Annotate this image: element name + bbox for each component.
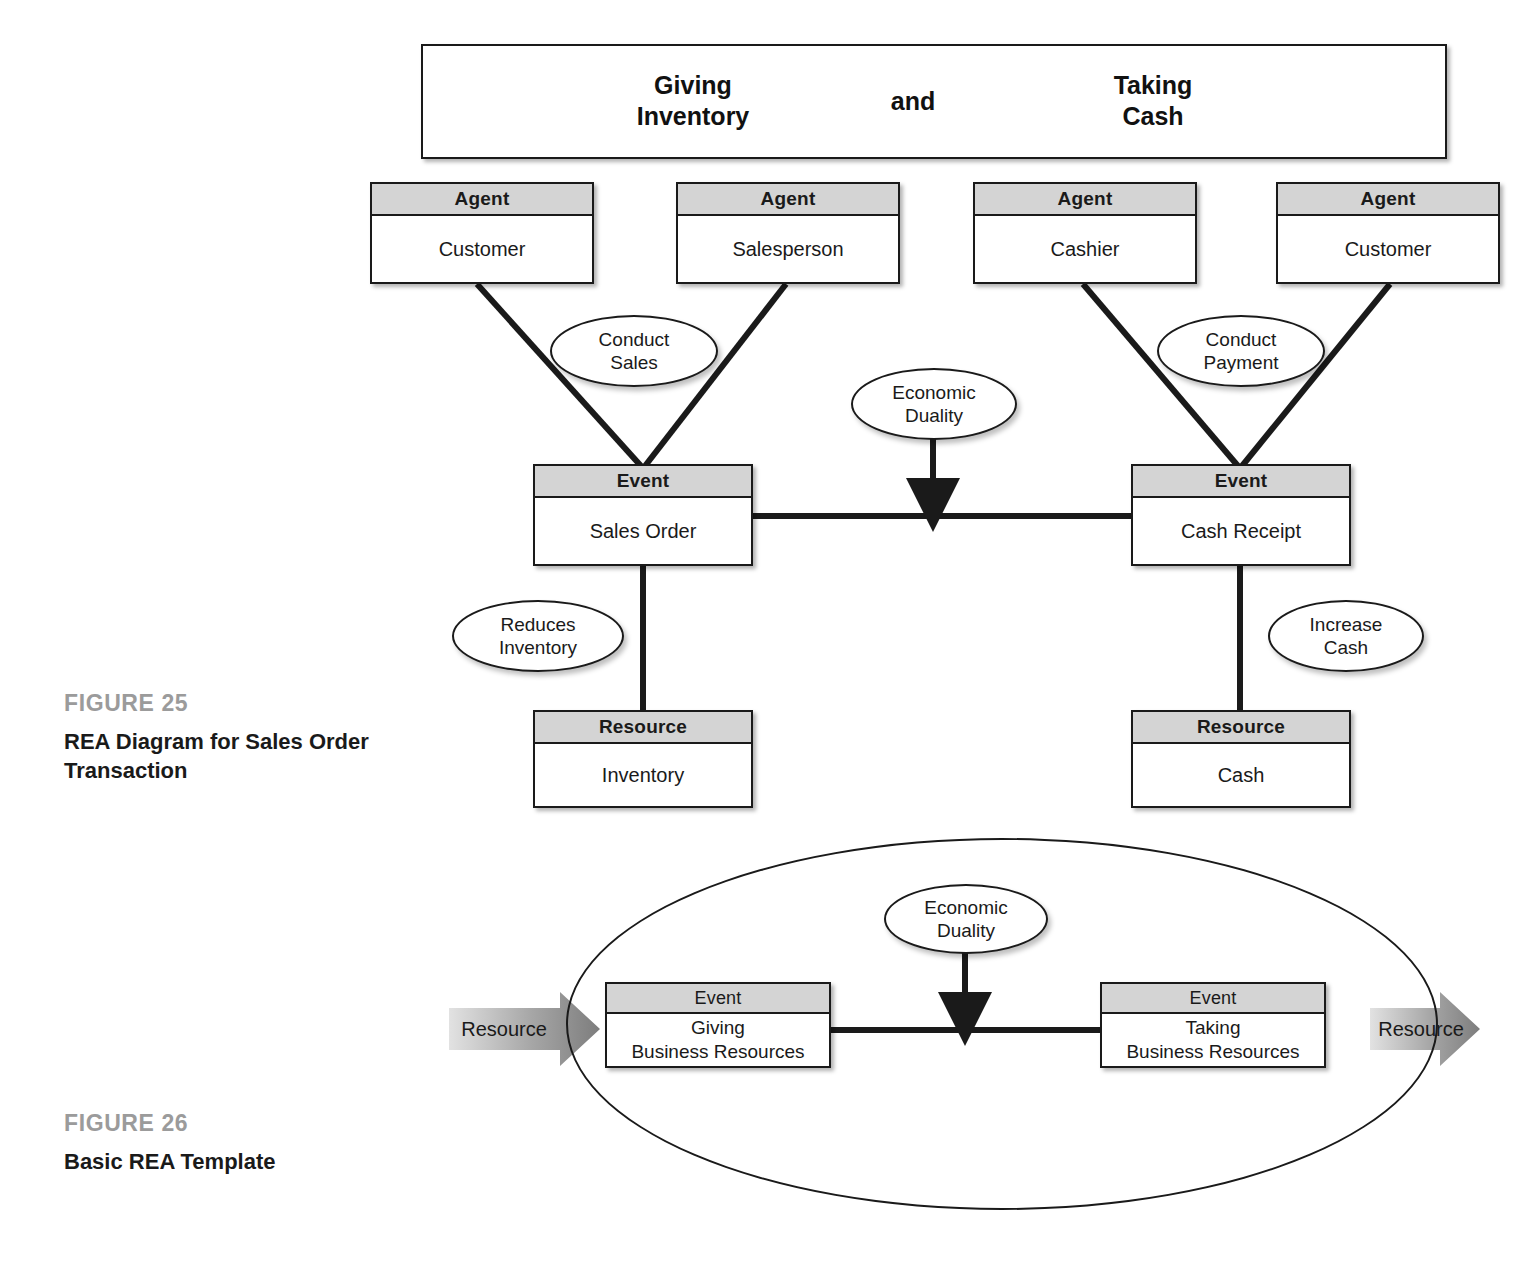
agent-box-header: Agent [678,184,898,216]
figure-25-title: REA Diagram for Sales Order Transaction [64,727,394,785]
template-event-header: Event [607,984,829,1014]
figure-26-title: Basic REA Template [64,1147,394,1176]
template-event-line1: Taking [1126,1016,1299,1040]
template-duality-line1: Economic [924,896,1007,919]
template-event-line2: Business Resources [631,1040,804,1064]
agent-box-header: Agent [975,184,1195,216]
agent-box-header: Agent [372,184,592,216]
agent-box-customer-payment: Agent Customer [1276,182,1500,284]
resource-box-inventory: Resource Inventory [533,710,753,808]
relationship-line2: Sales [599,351,670,374]
template-duality-line2: Duality [924,919,1007,942]
relationship-line2: Duality [892,404,975,427]
event-box-header: Event [535,466,751,498]
relationship-ellipse-reduces-inventory: Reduces Inventory [452,600,624,672]
relationship-line1: Conduct [1204,328,1279,351]
figure-page: Giving Inventory and Taking Cash Agent C… [0,0,1525,1263]
resource-box-cash: Resource Cash [1131,710,1351,808]
template-event-name: Taking Business Resources [1102,1014,1324,1066]
resource-box-header: Resource [535,712,751,744]
relationship-line1: Increase [1310,613,1383,636]
template-event-name: Giving Business Resources [607,1014,829,1066]
figure-26-caption: FIGURE 26 Basic REA Template [64,1110,394,1176]
agent-box-salesperson: Agent Salesperson [676,182,900,284]
event-box-name: Cash Receipt [1133,498,1349,564]
resource-box-name: Inventory [535,744,751,806]
transaction-banner: Giving Inventory and Taking Cash [421,44,1447,159]
resource-out-label: Resource [1366,998,1476,1060]
event-box-cash-receipt: Event Cash Receipt [1131,464,1351,566]
agent-box-name: Customer [1278,216,1498,282]
template-event-header: Event [1102,984,1324,1014]
figure-25-caption: FIGURE 25 REA Diagram for Sales Order Tr… [64,690,394,785]
banner-giving-inventory: Giving Inventory [583,70,803,132]
relationship-ellipse-conduct-payment: Conduct Payment [1157,315,1325,387]
relationship-line2: Cash [1310,636,1383,659]
banner-taking-line1: Taking [1043,70,1263,101]
event-box-name: Sales Order [535,498,751,564]
template-event-line1: Giving [631,1016,804,1040]
template-event-box-taking: Event Taking Business Resources [1100,982,1326,1068]
event-box-sales-order: Event Sales Order [533,464,753,566]
agent-box-header: Agent [1278,184,1498,216]
template-relationship-ellipse-economic-duality: Economic Duality [884,884,1048,954]
agent-box-cashier: Agent Cashier [973,182,1197,284]
resource-box-name: Cash [1133,744,1349,806]
banner-giving-line1: Giving [583,70,803,101]
resource-out-arrow: Resource [1366,998,1516,1060]
figure-26-number: FIGURE 26 [64,1110,394,1137]
resource-box-header: Resource [1133,712,1349,744]
relationship-ellipse-conduct-sales: Conduct Sales [550,315,718,387]
banner-and: and [853,86,973,117]
banner-taking-cash: Taking Cash [1043,70,1263,132]
event-box-header: Event [1133,466,1349,498]
agent-box-customer-sales: Agent Customer [370,182,594,284]
relationship-line2: Payment [1204,351,1279,374]
agent-box-name: Customer [372,216,592,282]
resource-in-label: Resource [449,998,559,1060]
relationship-line1: Conduct [599,328,670,351]
figure-25-number: FIGURE 25 [64,690,394,717]
relationship-line1: Reduces [499,613,577,636]
template-event-box-giving: Event Giving Business Resources [605,982,831,1068]
banner-taking-line2: Cash [1043,101,1263,132]
agent-box-name: Cashier [975,216,1195,282]
template-event-line2: Business Resources [1126,1040,1299,1064]
banner-giving-line2: Inventory [583,101,803,132]
relationship-line2: Inventory [499,636,577,659]
agent-box-name: Salesperson [678,216,898,282]
relationship-line1: Economic [892,381,975,404]
relationship-ellipse-economic-duality: Economic Duality [851,368,1017,440]
relationship-ellipse-increase-cash: Increase Cash [1268,600,1424,672]
resource-in-arrow: Resource [449,998,599,1060]
